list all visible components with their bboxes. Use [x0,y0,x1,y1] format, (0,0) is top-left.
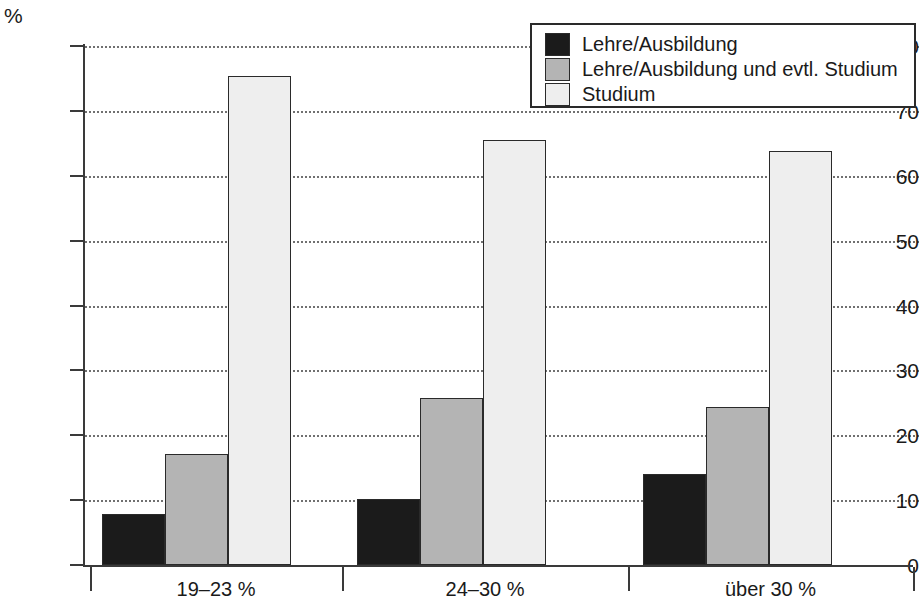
x-axis-tick-mark [628,567,630,591]
y-axis-tick-mark [70,240,84,242]
legend-swatch-icon [545,83,570,106]
chart-canvas: % 80706050403020100 19–23 %24–30 %über 3… [0,0,919,609]
bar [483,140,546,565]
x-axis-tick-mark [913,567,915,591]
legend-swatch-icon [545,33,570,56]
y-axis-unit-label: % [4,4,23,28]
y-axis-tick-label: 20 [873,424,919,448]
bar [357,499,420,565]
x-axis-line [83,565,913,567]
y-axis-tick-mark [70,434,84,436]
legend-item: Lehre/Ausbildung und evtl. Studium [545,56,898,82]
y-axis-tick-mark [70,499,84,501]
x-axis-category-label: 19–23 % [106,578,326,601]
bar [228,76,291,565]
y-axis-tick-mark [70,175,84,177]
chart-legend: Lehre/AusbildungLehre/Ausbildung und evt… [530,23,916,108]
y-axis-tick-mark [70,305,84,307]
y-axis-tick-mark [70,45,84,47]
y-axis-tick-label: 40 [873,295,919,319]
legend-item-label: Studium [582,83,655,106]
bar [643,474,706,565]
y-axis-line [83,44,85,567]
legend-item: Lehre/Ausbildung [545,31,738,57]
legend-item: Studium [545,81,655,107]
gridline [85,111,919,113]
y-axis-tick-mark [70,110,84,112]
bar [706,407,769,565]
y-axis-tick-label: 30 [873,359,919,383]
bar [102,514,165,565]
y-axis-tick-label: 10 [873,489,919,513]
bar [769,151,832,565]
bar [420,398,483,565]
y-axis-tick-mark [70,564,84,566]
y-axis-tick-label: 50 [873,230,919,254]
x-axis-category-label: über 30 % [661,578,881,601]
legend-item-label: Lehre/Ausbildung [582,33,738,56]
y-axis-tick-label: 60 [873,165,919,189]
y-axis-tick-mark [70,369,84,371]
bar [165,454,228,565]
x-axis-tick-mark [90,567,92,591]
legend-swatch-icon [545,58,570,81]
x-axis-category-label: 24–30 % [375,578,595,601]
x-axis-tick-mark [342,567,344,591]
legend-item-label: Lehre/Ausbildung und evtl. Studium [582,58,898,81]
